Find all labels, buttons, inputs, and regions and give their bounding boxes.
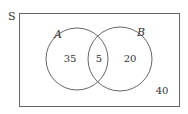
outside-count: 40 bbox=[156, 85, 169, 96]
b-only-count: 20 bbox=[124, 53, 137, 64]
a-only-count: 35 bbox=[64, 53, 77, 64]
universe-label: S bbox=[8, 10, 16, 23]
intersection-count: 5 bbox=[96, 53, 102, 64]
set-b-label: B bbox=[136, 26, 145, 39]
venn-diagram: S A B 35 5 20 40 bbox=[0, 0, 188, 114]
set-a-label: A bbox=[53, 28, 62, 41]
